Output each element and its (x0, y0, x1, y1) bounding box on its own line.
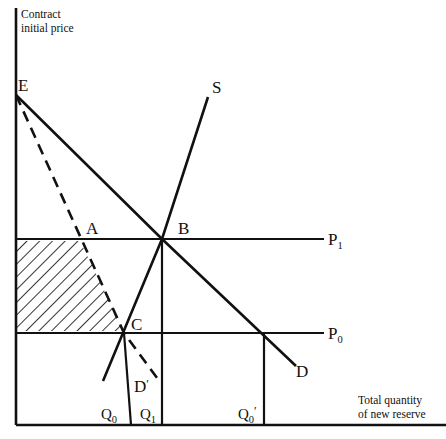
x-axis-title-line1: Total quantity (358, 394, 422, 407)
point-label-e: E (18, 76, 28, 95)
figure-canvas: Contract initial price Total quantity of… (0, 0, 446, 439)
point-label-b: B (178, 219, 189, 238)
price-label-p1-base: P (328, 230, 337, 249)
price-label-p0-sub: 0 (337, 334, 342, 345)
y-axis-title-line1: Contract (21, 8, 61, 20)
quantity-label-q0-prime-mark: ′ (254, 404, 257, 418)
hatched-surplus-area (16, 241, 124, 331)
point-label-c: C (131, 315, 142, 334)
quantity-label-q1-base: Q (140, 406, 151, 422)
y-axis-title-line2: initial price (21, 22, 74, 35)
price-label-p0: P0 (328, 324, 343, 345)
curve-label-supply: S (212, 78, 221, 97)
quantity-label-q0-sub: 0 (112, 414, 117, 425)
quantity-label-q0: Q0 (101, 406, 117, 425)
quantity-label-q0-prime-base: Q (238, 406, 249, 422)
curve-label-demand-prime-mark: ′ (146, 377, 149, 391)
point-label-a: A (86, 219, 99, 238)
quantity-label-q0-prime: Q0′ (238, 404, 257, 425)
quantity-label-q1-sub: 1 (151, 414, 156, 425)
x-axis-title-line2: of new reserve (358, 408, 426, 420)
price-label-p0-base: P (328, 324, 337, 343)
price-label-p1-sub: 1 (337, 240, 342, 251)
quantity-line-q0 (124, 333, 131, 425)
curve-label-demand: D (296, 362, 308, 381)
curve-label-demand-prime: D′ (134, 377, 149, 396)
curve-label-demand-prime-base: D (134, 377, 146, 396)
economics-supply-demand-figure: Contract initial price Total quantity of… (0, 0, 446, 439)
quantity-label-q0-base: Q (101, 406, 112, 422)
price-label-p1: P1 (328, 230, 343, 251)
quantity-label-q1: Q1 (140, 406, 156, 425)
